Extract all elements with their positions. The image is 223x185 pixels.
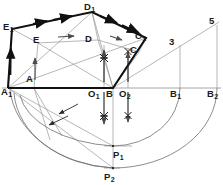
label-O1: O1 (88, 89, 99, 99)
label-P2-base: P (104, 171, 110, 182)
label-D1-base: D (84, 1, 91, 12)
label-P1: P1 (113, 150, 123, 160)
label-O1-base: O (88, 88, 95, 99)
arrow-d1-c1-a (100, 16, 117, 23)
label-B2: B2 (207, 89, 218, 99)
label-P2: P2 (104, 172, 114, 182)
label-E1-subscript: 1 (10, 26, 14, 33)
label-A-base: A (26, 73, 33, 84)
label-E1: E1 (3, 22, 13, 32)
label-O2-base: O (119, 88, 126, 99)
division-mark-3: 3 (169, 37, 174, 47)
label-A1-subscript: 1 (8, 91, 12, 98)
label-B1-base: B (170, 88, 177, 99)
label-O2: O2 (119, 89, 130, 99)
arrow-e1-d1-b (53, 16, 72, 20)
label-D1: D1 (84, 2, 95, 12)
ray-a1-d1 (8, 12, 92, 88)
label-C: C (130, 45, 137, 55)
label-B2-subscript: 2 (214, 93, 218, 100)
diagonal-b-e (38, 43, 113, 88)
label-E-base: E (33, 34, 39, 45)
label-C1-base: C (135, 30, 142, 41)
label-B: B (106, 89, 113, 99)
label-P1-subscript: 1 (120, 154, 124, 161)
label-C-base: C (130, 44, 137, 55)
label-C1-subscript: 1 (142, 35, 146, 42)
label-P1-base: P (113, 149, 119, 160)
label-D: D (85, 34, 92, 44)
inner-pentagon (34, 40, 139, 88)
ray-a-down-2 (34, 88, 50, 140)
label-E: E (33, 35, 39, 45)
label-A1: A1 (1, 87, 12, 97)
label-B-base: B (106, 88, 113, 99)
label-D-base: D (85, 33, 92, 44)
division-mark-5: 5 (209, 16, 214, 26)
ray-a-down-1 (34, 88, 62, 136)
vertex-dot-p2 (112, 167, 114, 169)
label-D1-subscript: 1 (91, 6, 95, 13)
label-P2-subscript: 2 (111, 176, 115, 183)
label-A1-base: A (1, 86, 8, 97)
arrow-arc-sweep-1 (59, 104, 78, 114)
label-C1: C1 (135, 31, 146, 41)
arrow-d-c (110, 36, 122, 40)
label-B1: B1 (170, 89, 181, 99)
label-A: A (26, 74, 33, 84)
diagram-canvas: E1ED1DC1CAA1O1BO2B1B2P1P235 (0, 0, 223, 185)
chord-a1-p2 (8, 88, 113, 168)
label-O2-subscript: 2 (127, 93, 131, 100)
arc-b2-p2 (113, 88, 217, 168)
label-O1-subscript: 1 (96, 93, 100, 100)
label-B1-subscript: 1 (177, 93, 181, 100)
division-line (113, 22, 219, 88)
edge-d1-b (92, 12, 113, 88)
arrow-e-d (58, 36, 74, 37)
vertex-dot-p1 (112, 145, 114, 147)
label-B2-base: B (207, 88, 214, 99)
direction-arrows (11, 16, 140, 125)
arrow-arc-sweep-2 (49, 116, 68, 125)
label-E1-base: E (3, 21, 9, 32)
